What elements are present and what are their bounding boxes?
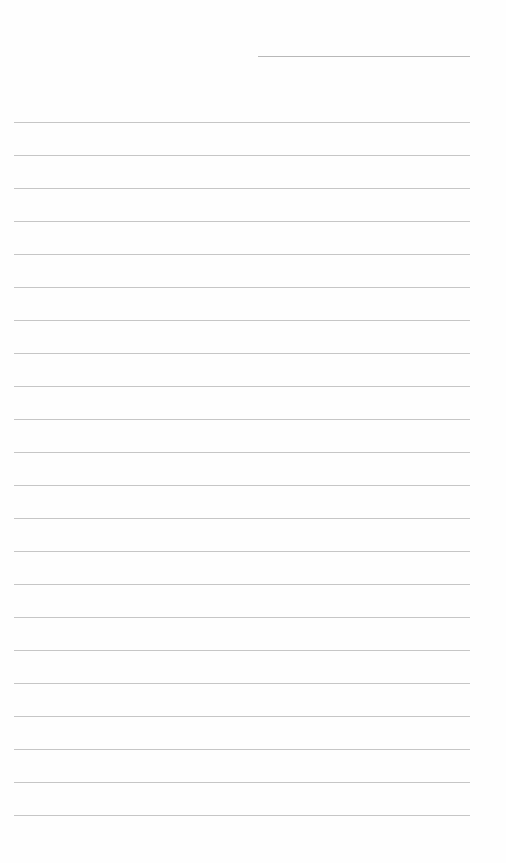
ruled-line [14, 485, 470, 486]
ruled-line [14, 155, 470, 156]
ruled-line [14, 287, 470, 288]
ruled-line [14, 188, 470, 189]
ruled-line [14, 221, 470, 222]
ruled-line [14, 353, 470, 354]
ruled-line [14, 584, 470, 585]
ruled-line [14, 386, 470, 387]
header-name-line [258, 56, 470, 57]
lined-paper-sheet [0, 0, 506, 863]
ruled-line [14, 782, 470, 783]
ruled-line [14, 815, 470, 816]
ruled-line [14, 254, 470, 255]
ruled-line [14, 419, 470, 420]
ruled-line [14, 551, 470, 552]
ruled-line [14, 320, 470, 321]
ruled-line [14, 452, 470, 453]
ruled-line [14, 518, 470, 519]
ruled-line [14, 650, 470, 651]
ruled-line [14, 749, 470, 750]
ruled-line [14, 716, 470, 717]
ruled-line [14, 683, 470, 684]
ruled-line [14, 617, 470, 618]
ruled-line [14, 122, 470, 123]
